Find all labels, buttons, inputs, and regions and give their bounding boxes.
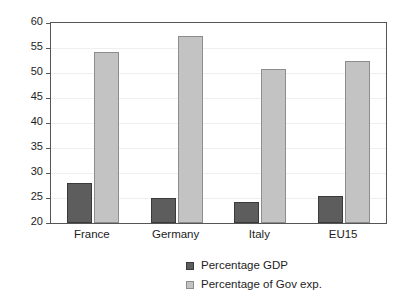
legend-item: Percentage of Gov exp.: [186, 275, 406, 294]
y-axis-tick: [46, 223, 51, 224]
bar-group: [219, 23, 303, 223]
legend-item-label: Percentage of Gov exp.: [201, 278, 322, 291]
legend-swatch-icon: [186, 262, 194, 270]
y-axis-tick-label: 25: [3, 191, 43, 202]
y-axis-tick-label: 40: [3, 116, 43, 127]
legend-item-label: Percentage GDP: [201, 259, 288, 272]
y-axis-tick-label: 35: [3, 141, 43, 152]
bar-group: [302, 23, 386, 223]
bar: [261, 69, 286, 223]
y-axis-tick-label: 55: [3, 41, 43, 52]
bar-chart: 202530354045505560 FranceGermanyItalyEU1…: [0, 0, 410, 304]
y-axis-tick-label: 45: [3, 91, 43, 102]
y-axis-tick-label: 20: [3, 216, 43, 227]
x-axis: FranceGermanyItalyEU15: [50, 227, 387, 243]
bar: [345, 61, 370, 224]
x-axis-category-label: EU15: [301, 227, 385, 241]
y-axis-tick-label: 50: [3, 66, 43, 77]
x-axis-category-label: France: [50, 227, 134, 241]
y-axis: 202530354045505560: [0, 22, 43, 222]
legend-item: Percentage GDP: [186, 256, 406, 275]
x-axis-category-label: Italy: [218, 227, 302, 241]
bar: [67, 183, 92, 223]
bar: [178, 36, 203, 223]
x-axis-category-label: Germany: [134, 227, 218, 241]
bar: [318, 196, 343, 223]
bar-group: [51, 23, 135, 223]
bar: [94, 52, 119, 223]
chart-legend: Percentage GDPPercentage of Gov exp.: [186, 256, 406, 294]
bar: [151, 198, 176, 223]
y-axis-tick-label: 60: [3, 16, 43, 27]
y-axis-tick-label: 30: [3, 166, 43, 177]
plot-area: [50, 22, 387, 224]
legend-swatch-icon: [186, 281, 194, 289]
bar-group: [135, 23, 219, 223]
bar: [234, 202, 259, 223]
